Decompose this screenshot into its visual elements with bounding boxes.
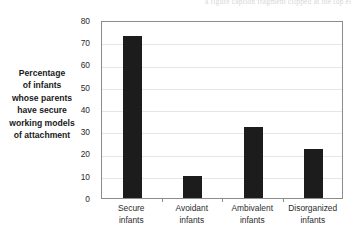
- bar-disorganized-infants: [304, 149, 323, 198]
- x-label-line: Disorganized: [283, 203, 344, 215]
- bar-chart-figure: a figure caption fragment clipped at the…: [0, 0, 351, 232]
- y-tick-label: 80: [68, 17, 90, 25]
- y-tick-label: 60: [68, 61, 90, 69]
- plot-area: [101, 21, 343, 199]
- x-axis-tick: [222, 199, 223, 202]
- x-label-disorganized-infants: Disorganizedinfants: [283, 203, 344, 226]
- bar-secure-infants: [123, 36, 142, 198]
- y-tick-label: 50: [68, 84, 90, 92]
- y-tick-label: 40: [68, 106, 90, 114]
- x-axis-tick: [162, 199, 163, 202]
- x-label-line: infants: [222, 215, 283, 227]
- x-label-line: infants: [101, 215, 162, 227]
- y-tick-label: 70: [68, 39, 90, 47]
- y-tick-label: 10: [68, 173, 90, 181]
- x-label-line: Ambivalent: [222, 203, 283, 215]
- y-tick-label: 20: [68, 150, 90, 158]
- x-axis-category-labels: SecureinfantsAvoidantinfantsAmbivalentin…: [101, 203, 343, 229]
- y-tick-label: 30: [68, 128, 90, 136]
- x-axis-tick: [283, 199, 284, 202]
- x-label-avoidant-infants: Avoidantinfants: [162, 203, 223, 226]
- bar-ambivalent-infants: [244, 127, 263, 198]
- x-label-line: infants: [283, 215, 344, 227]
- x-label-line: Secure: [101, 203, 162, 215]
- y-tick-label: 0: [68, 195, 90, 203]
- x-label-secure-infants: Secureinfants: [101, 203, 162, 226]
- clipped-caption-fragment: a figure caption fragment clipped at the…: [205, 0, 351, 6]
- bar-avoidant-infants: [183, 176, 202, 198]
- x-label-ambivalent-infants: Ambivalentinfants: [222, 203, 283, 226]
- x-label-line: infants: [162, 215, 223, 227]
- x-label-line: Avoidant: [162, 203, 223, 215]
